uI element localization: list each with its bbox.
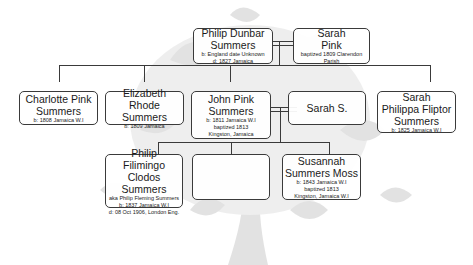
person-card-susannah-summers-moss[interactable]: Susannah Summers Moss b: 1843 Jamaica W.… [282,154,361,200]
person-detail: d: 1827 Jamaica [213,58,253,65]
person-detail: b: 1837 Jamaica W.I [119,202,169,209]
person-card-elizabeth-rhode-summers[interactable]: Elizabeth Rhode Summers b: 1809 Jamaica [105,91,184,125]
person-detail: Kingston, Jamaica W.I [294,193,348,200]
person-name: Summers [211,39,256,51]
person-detail: b: 1811 Jamaica W.I [206,117,255,124]
person-name: Summers [122,111,167,123]
drop-elizabeth [144,65,145,82]
descent-line-gen2 [280,107,281,142]
person-detail: baptized 1813 [304,186,339,193]
person-name: Summers [122,183,167,195]
person-name: Summers [36,105,81,117]
person-name: Sarah [317,27,345,39]
person-card-sarah-philippa-fliptor-summers[interactable]: Sarah Philippa Fliptor Summers b: 1825 J… [377,91,456,133]
drop-charlotte [59,65,60,82]
person-detail: b: 1825 Jamaica W.I [392,127,442,134]
person-detail: b: England date Unknown [202,51,265,58]
person-detail: baptized 1809 Clarendon Parish [296,51,367,65]
person-detail: Kingston, Jamaica [209,131,254,138]
siblings-bar-gen3 [158,142,329,143]
person-card-philip-dunbar-summers[interactable]: Philip Dunbar Summers b: England date Un… [193,28,273,64]
marriage-line-top [272,41,294,42]
person-card-sarah-s[interactable]: Sarah S. [288,91,366,125]
person-name: Susannah [298,155,345,167]
person-name: Filimingo Clodos [108,159,180,183]
person-card-empty[interactable] [192,154,270,200]
person-card-charlotte-pink-summers[interactable]: Charlotte Pink Summers b: 1808 Jamaica W… [19,91,98,125]
person-name: Sarah S. [307,102,348,114]
drop-john [230,65,231,82]
person-name: Philippa Fliptor [382,103,451,115]
person-detail: b: 1808 Jamaica W.I [34,117,84,124]
person-detail: baptized 1813 [214,124,249,131]
person-detail: aka Philip Fleming Summers [109,195,179,202]
person-name: Sarah [402,91,430,103]
person-name: Summers Moss [285,167,358,179]
person-name: John Pink [208,93,254,105]
person-detail: b: 1809 Jamaica [124,123,164,130]
person-detail: b: 1843 Jamaica W.I [297,179,347,186]
drop-sarah-philippa [430,65,431,82]
person-name: Elizabeth Rhode [108,87,181,111]
person-detail: d: 08 Oct 1906, London Eng. [109,209,179,216]
person-card-john-pink-summers[interactable]: John Pink Summers b: 1811 Jamaica W.I ba… [191,91,271,139]
marriage-line-bottom [272,45,294,46]
person-name: Philip [131,147,157,159]
person-card-sarah-pink[interactable]: Sarah Pink baptized 1809 Clarendon Paris… [293,28,370,64]
siblings-bar-gen2 [59,65,431,66]
person-name: Summers [394,115,439,127]
person-name: Charlotte Pink [26,93,92,105]
person-name: Philip Dunbar [201,27,264,39]
person-card-philip-filimingo-clodos-summers[interactable]: Philip Filimingo Clodos Summers aka Phil… [105,154,183,208]
person-name: Pink [321,39,341,51]
descent-line-gen1 [279,41,280,65]
person-name: Summers [209,105,254,117]
